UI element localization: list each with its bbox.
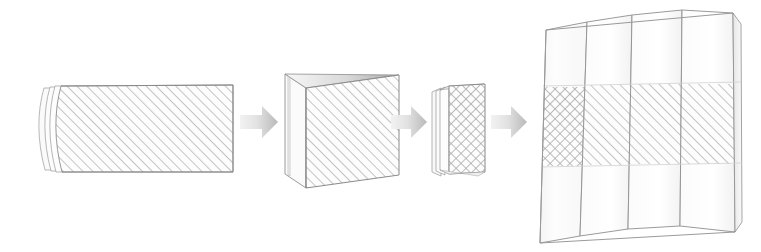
step-2-half-folded-sheet bbox=[285, 74, 399, 188]
unfolded-strip-3 bbox=[624, 10, 686, 229]
fold-front-panel-hatched bbox=[306, 75, 399, 188]
step-1-flat-hatched-sheet bbox=[39, 85, 233, 172]
unfolded-strip-4 bbox=[676, 10, 740, 232]
stack-leaf-front bbox=[440, 86, 449, 174]
figure-container: Sheet folding and unfolding sequence Fla… bbox=[0, 0, 761, 252]
sheet-face-hatched bbox=[56, 85, 233, 172]
strip-4-diagonal-hatch bbox=[676, 84, 740, 164]
step-4-unfolded-panel-array bbox=[530, 10, 742, 243]
strip-4-pattern-band bbox=[676, 84, 740, 164]
strip-3-diagonal-hatch bbox=[624, 84, 686, 164]
stack-face-crosshatched bbox=[449, 84, 485, 174]
fold-back-layer-edge bbox=[288, 75, 290, 176]
step-3-quarter-folded-sheet bbox=[432, 84, 485, 176]
unfolded-right-facet bbox=[733, 13, 742, 232]
folding-sequence-diagram bbox=[0, 0, 761, 252]
strip-3-pattern-band bbox=[624, 84, 686, 164]
